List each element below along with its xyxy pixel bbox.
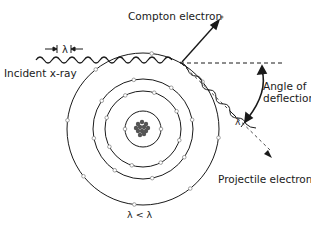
projectile-electron-label: Projectile electron: [218, 174, 311, 185]
shell-electron: [123, 94, 127, 98]
shell-electron: [175, 109, 179, 113]
shell-electron: [150, 52, 154, 56]
shell-electron: [188, 187, 192, 191]
shell-electron: [178, 138, 182, 142]
shell-electron: [105, 116, 109, 120]
shell-electron: [92, 136, 96, 140]
shell-electron: [132, 78, 136, 82]
compton-electron-label: Compton electron: [128, 11, 222, 22]
incident-xray-wave: [36, 57, 172, 63]
shell-electron: [108, 145, 112, 149]
shell-electron: [123, 127, 127, 131]
nucleus: [134, 120, 150, 137]
shell-electron: [152, 91, 156, 95]
angle-label-line2: deflection: [263, 92, 311, 104]
incident-wavelength-symbol: λ: [62, 45, 68, 55]
shell-electron: [159, 161, 163, 165]
shell-electron: [94, 68, 98, 72]
shell-electron: [113, 168, 117, 172]
shell-electron: [190, 118, 194, 122]
shell-electron: [66, 119, 70, 123]
shell-electron: [169, 86, 173, 90]
shell-electron: [100, 99, 104, 103]
wavelength-relation-label: λ < λ: [127, 210, 152, 220]
scattered-wavelength-symbol: λ: [235, 118, 240, 127]
scattered-arrowhead: [264, 150, 272, 158]
angle-of-deflection-label: Angle of deflection: [263, 80, 311, 104]
shell-1: [125, 111, 161, 147]
compton-electron-arrow: [182, 20, 219, 62]
scattered-dashed-line: [182, 64, 270, 150]
shell-electron: [217, 136, 221, 140]
shell-electron: [159, 127, 163, 131]
shell-electron: [182, 155, 186, 159]
incident-xray-label: Incident x-ray: [4, 68, 77, 79]
shell-electron: [133, 203, 137, 207]
shell-3: [93, 79, 193, 179]
shell-electron: [150, 176, 154, 180]
shell-electron: [130, 164, 134, 168]
shell-electron: [82, 174, 86, 178]
shell-2: [105, 91, 181, 167]
angle-label-line1: Angle of: [263, 80, 311, 92]
compton-diagram: [0, 0, 311, 228]
